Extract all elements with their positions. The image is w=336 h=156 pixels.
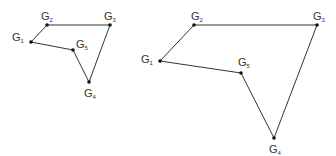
edge-g5-g1 bbox=[160, 61, 241, 73]
edge-g1-g2 bbox=[31, 25, 47, 42]
large-polygon: G1G2G3G4G5 bbox=[141, 10, 326, 156]
node-g5 bbox=[71, 48, 75, 52]
edge-g1-g2 bbox=[160, 25, 194, 61]
node-g1 bbox=[158, 59, 162, 63]
edge-g4-g5 bbox=[241, 73, 274, 138]
node-g4 bbox=[87, 80, 91, 84]
edge-g3-g4 bbox=[274, 25, 317, 138]
edge-g5-g1 bbox=[31, 42, 73, 50]
label-g5: G5 bbox=[238, 56, 251, 69]
label-g2: G2 bbox=[191, 10, 204, 23]
node-g5 bbox=[239, 71, 243, 75]
node-g1 bbox=[29, 40, 33, 44]
label-g3: G3 bbox=[104, 10, 117, 23]
label-g3: G3 bbox=[313, 10, 326, 23]
node-g3 bbox=[108, 23, 112, 27]
label-g1: G1 bbox=[12, 31, 25, 44]
node-g3 bbox=[315, 23, 319, 27]
label-g4: G4 bbox=[269, 143, 282, 156]
node-g2 bbox=[45, 23, 49, 27]
node-g4 bbox=[272, 136, 276, 140]
label-g1: G1 bbox=[141, 53, 154, 66]
edge-g4-g5 bbox=[73, 50, 89, 82]
small-polygon: G1G2G3G4G5 bbox=[12, 10, 117, 100]
label-g5: G5 bbox=[76, 38, 89, 51]
diagram-canvas: G1G2G3G4G5G1G2G3G4G5 bbox=[0, 0, 336, 156]
node-g2 bbox=[192, 23, 196, 27]
label-g2: G2 bbox=[41, 10, 54, 23]
label-g4: G4 bbox=[84, 87, 97, 100]
edge-g3-g4 bbox=[89, 25, 110, 82]
